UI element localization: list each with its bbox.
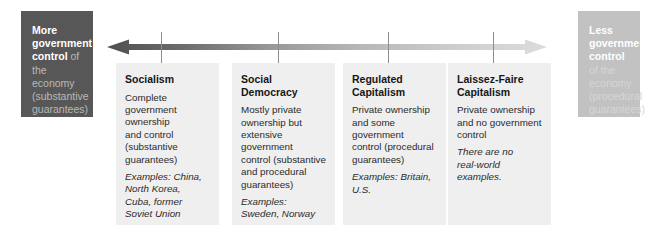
diagram-canvas: More government control of the economy (… xyxy=(0,0,654,242)
right-endcap-less-government-control: Less government control of the economy (… xyxy=(578,11,640,117)
column-social-democracy: Social Democracy Mostly private ownershi… xyxy=(232,63,335,225)
column-regulated-capitalism-title: Regulated Capitalism xyxy=(352,73,437,98)
column-regulated-capitalism-body: Private ownership and some government co… xyxy=(352,104,437,166)
column-socialism: Socialism Complete government ownership … xyxy=(116,63,219,225)
left-endcap-strong-text: More government control xyxy=(32,24,92,62)
column-social-democracy-examples: Examples: Sweden, Norway xyxy=(241,196,326,221)
column-socialism-title: Socialism xyxy=(125,73,210,86)
column-laissez-faire-capitalism-title: Laissez-Faire Capitalism xyxy=(457,73,542,98)
column-laissez-faire-capitalism-examples: There are no real-world examples. xyxy=(457,146,542,183)
column-regulated-capitalism-examples: Examples: Britain, U.S. xyxy=(352,171,437,196)
continuum-arrow-icon xyxy=(107,36,547,58)
column-laissez-faire-capitalism-body: Private ownership and no government cont… xyxy=(457,104,542,141)
tick-mark-laissez-faire-capitalism xyxy=(493,32,494,66)
column-social-democracy-title: Social Democracy xyxy=(241,73,326,98)
column-socialism-examples: Examples: China, North Korea, Cuba, form… xyxy=(125,171,210,221)
tick-mark-social-democracy xyxy=(278,32,279,66)
tick-mark-regulated-capitalism xyxy=(388,32,389,66)
right-endcap-strong-text: Less government control xyxy=(589,24,649,62)
column-socialism-body: Complete government ownership and contro… xyxy=(125,92,210,166)
right-endcap-soft-text: of the economy (procedural guarantees) xyxy=(589,64,645,116)
column-social-democracy-body: Mostly private ownership but extensive g… xyxy=(241,104,326,191)
column-laissez-faire-capitalism: Laissez-Faire Capitalism Private ownersh… xyxy=(448,63,551,225)
left-endcap-more-government-control: More government control of the economy (… xyxy=(21,11,93,117)
tick-mark-socialism xyxy=(161,32,162,66)
column-regulated-capitalism: Regulated Capitalism Private ownership a… xyxy=(343,63,446,225)
